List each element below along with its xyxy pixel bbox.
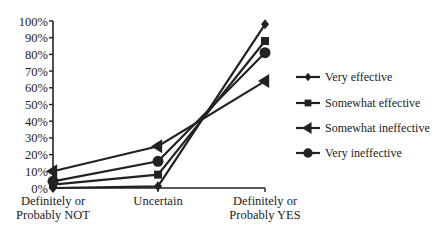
series-lines: [46, 19, 271, 193]
square-marker-icon: [261, 37, 269, 45]
legend: Very effectiveSomewhat effectiveSomewhat…: [296, 70, 430, 160]
triangle-marker-icon: [151, 139, 162, 153]
x-category-label: Probably NOT: [16, 208, 90, 222]
y-axis: 0%10%20%30%40%50%60%70%80%90%100%: [19, 15, 53, 196]
y-tick-label: 90%: [25, 31, 48, 45]
legend-item: Somewhat ineffective: [296, 121, 430, 135]
x-category-label: Probably YES: [229, 208, 300, 222]
y-tick-label: 80%: [25, 48, 48, 62]
square-marker-icon: [305, 100, 312, 107]
x-axis: Definitely orProbably NOTUncertainDefini…: [16, 188, 301, 222]
x-category-label: Definitely or: [21, 194, 86, 208]
y-tick-label: 60%: [25, 81, 48, 95]
circle-marker-icon: [303, 148, 312, 157]
y-tick-label: 50%: [25, 98, 48, 112]
circle-marker-icon: [48, 176, 59, 187]
legend-label: Very effective: [325, 70, 392, 84]
legend-label: Somewhat effective: [325, 96, 420, 110]
x-category-label: Definitely or: [233, 194, 298, 208]
circle-marker-icon: [260, 47, 271, 58]
diamond-marker-icon: [305, 73, 312, 82]
y-tick-label: 40%: [25, 115, 48, 129]
circle-marker-icon: [153, 156, 164, 167]
triangle-marker-icon: [258, 74, 269, 88]
legend-item: Very effective: [296, 70, 392, 84]
legend-label: Very ineffective: [325, 146, 402, 160]
y-tick-label: 20%: [25, 148, 48, 162]
series-very-effective: [49, 19, 269, 193]
triangle-marker-icon: [302, 122, 312, 134]
y-tick-label: 70%: [25, 65, 48, 79]
legend-item: Somewhat effective: [296, 96, 420, 110]
x-category-label: Uncertain: [133, 194, 183, 208]
y-tick-label: 30%: [25, 131, 48, 145]
y-tick-label: 10%: [25, 165, 48, 179]
legend-item: Very ineffective: [296, 146, 402, 160]
line-chart: 0%10%20%30%40%50%60%70%80%90%100% Defini…: [0, 0, 438, 238]
square-marker-icon: [154, 171, 162, 179]
y-tick-label: 100%: [19, 15, 48, 29]
legend-label: Somewhat ineffective: [325, 121, 430, 135]
